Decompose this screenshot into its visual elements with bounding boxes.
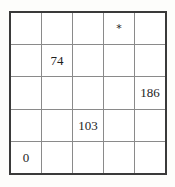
cell-value: 103 [78,119,98,132]
grid-cell-r4c2[interactable] [41,109,72,141]
cell-value: 186 [140,86,160,99]
grid-cell-r1c4[interactable]: * [103,12,134,44]
asterisk-icon: * [116,23,122,34]
grid-row: 186 [10,77,166,109]
grid-cell-r3c5[interactable]: 186 [134,77,166,109]
cell-value: 0 [23,151,30,164]
grid-cell-r5c4[interactable] [103,142,134,174]
grid-cell-r1c2[interactable] [41,12,72,44]
grid-cell-r2c2[interactable]: 74 [41,44,72,76]
grid-cell-r3c3[interactable] [72,77,103,109]
puzzle-grid-container: * 74 186 103 [9,11,167,175]
grid-cell-r2c1[interactable] [10,44,41,76]
grid-cell-r1c3[interactable] [72,12,103,44]
cell-value: 74 [50,54,63,67]
grid-cell-r4c4[interactable] [103,109,134,141]
grid-row: 103 [10,109,166,141]
puzzle-grid: * 74 186 103 [9,11,167,175]
grid-cell-r2c3[interactable] [72,44,103,76]
grid-cell-r2c4[interactable] [103,44,134,76]
grid-row: 0 [10,142,166,174]
grid-cell-r2c5[interactable] [134,44,166,76]
grid-row: 74 [10,44,166,76]
grid-cell-r5c5[interactable] [134,142,166,174]
grid-cell-r5c3[interactable] [72,142,103,174]
grid-cell-r4c1[interactable] [10,109,41,141]
grid-row: * [10,12,166,44]
grid-cell-r3c1[interactable] [10,77,41,109]
grid-cell-r4c3[interactable]: 103 [72,109,103,141]
grid-cell-r1c1[interactable] [10,12,41,44]
grid-cell-r4c5[interactable] [134,109,166,141]
grid-cell-r3c2[interactable] [41,77,72,109]
grid-cell-r5c1[interactable]: 0 [10,142,41,174]
grid-cell-r1c5[interactable] [134,12,166,44]
grid-cell-r5c2[interactable] [41,142,72,174]
grid-cell-r3c4[interactable] [103,77,134,109]
